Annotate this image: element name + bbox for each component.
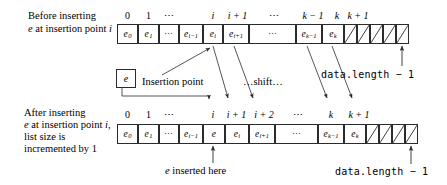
before-index-0: 0 [117,11,138,22]
before-index-dots-left: ⋯ [159,11,179,22]
after-cell-empty-3 [392,124,405,144]
before-caption-line1: Before inserting [28,10,96,21]
insertion-point-label: Insertion point [142,76,204,87]
after-end-label: data.length − 1 [335,167,428,178]
insertion-point-leader-arrow [162,48,210,75]
after-index-i-plus-2: i + 2 [250,110,278,121]
before-index-i-plus-1: i + 1 [223,11,252,22]
before-cell-i-minus-1-label: ei−1 [184,29,198,39]
after-cell-k: ek [344,124,366,144]
after-cell-ellipsis-left: ⋯ [159,124,179,144]
after-caption-i: i, [105,119,111,130]
after-index-k-plus-1: k + 1 [344,110,374,121]
after-caption-line2: e at insertion point i, [24,119,111,130]
shift-label: …shift… [243,76,283,87]
before-cell-k-minus-1: ek−1 [296,24,322,44]
after-cell-ellipsis-right: ⋯ [275,124,318,144]
before-caption-rest: at insertion point [33,23,109,34]
before-cell-empty-1 [344,24,357,44]
after-index-k: k [318,110,344,121]
before-cell-empty-5 [396,24,409,44]
after-caption-line4: incremented by 1 [24,143,97,154]
after-caption-line1: After inserting [24,107,86,118]
after-cell-0-label: e0 [124,129,132,139]
after-caption-rest: at insertion point [29,119,105,130]
after-cell-i-minus-1: ei−1 [179,124,203,144]
before-index-k: k [330,11,344,22]
after-index-dots-left: ⋯ [159,110,179,121]
after-cell-inserted-e-label: e [212,129,217,139]
after-cell-k-minus-1: ek−1 [318,124,344,144]
before-cell-ellipsis-right: ⋯ [249,24,296,44]
insertion-diagram: Before inserting e at insertion point i … [0,0,447,185]
before-index-i: i [203,11,223,22]
before-index-k-plus-1: k + 1 [344,11,372,22]
e-inserted-here-label: e inserted here [165,165,226,176]
after-cell-i-minus-1-label: ei−1 [184,129,198,139]
after-cell-i: ei [225,124,249,144]
after-cell-1: e1 [138,124,159,144]
before-index-dots-right: ⋯ [252,11,296,22]
before-cell-i-label: ei [210,29,216,39]
after-caption-line3: list size is [24,131,65,142]
before-cell-i-minus-1: ei−1 [179,24,203,44]
before-end-label: data.length − 1 [321,70,414,81]
before-cell-k-label: ek [329,29,336,39]
element-e-label: e [124,73,128,84]
before-cell-ellipsis-left: ⋯ [159,24,179,44]
before-index-k-minus-1: k − 1 [296,11,330,22]
before-cell-i-plus-1: ei+1 [223,24,249,44]
before-cell-1: e1 [138,24,159,44]
after-cell-i-plus-1-label: ei+1 [255,129,269,139]
element-e-box: e [116,69,136,88]
after-cell-empty-4 [405,124,418,144]
after-cell-empty-1 [366,124,379,144]
after-index-1: 1 [138,110,159,121]
after-cell-i-plus-1: ei+1 [249,124,275,144]
after-cell-i-label: ei [234,129,240,139]
before-cell-1-label: e1 [145,29,153,39]
after-cell-0: e0 [117,124,138,144]
before-cell-k-minus-1-label: ek−1 [301,29,316,39]
e-inserted-here-rest: inserted here [170,165,227,176]
after-cell-k-minus-1-label: ek−1 [323,129,338,139]
after-cell-empty-2 [379,124,392,144]
before-cell-i: ei [203,24,223,44]
after-index-0: 0 [117,110,138,121]
element-e-connector [122,88,209,99]
before-cell-k: ek [322,24,344,44]
before-cell-i-plus-1-label: ei+1 [229,29,243,39]
before-cell-empty-4 [383,24,396,44]
before-cell-empty-3 [370,24,383,44]
before-cell-0-label: e0 [124,29,132,39]
before-cell-empty-2 [357,24,370,44]
before-caption-line2: e at insertion point i [28,23,112,34]
after-cell-inserted-e: e [203,124,225,144]
after-cell-1-label: e1 [145,129,153,139]
after-index-i-plus-1: i + 1 [223,110,250,121]
after-index-i: i [203,110,223,121]
before-cell-0: e0 [117,24,138,44]
before-caption-i: i [109,23,112,34]
after-cell-k-label: ek [351,129,358,139]
before-index-1: 1 [138,11,159,22]
after-index-dots-right: ⋯ [278,110,318,121]
